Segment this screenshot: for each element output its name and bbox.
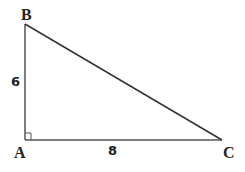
vertex-label-c: C: [223, 144, 235, 161]
side-label-ab: 6: [11, 74, 20, 89]
triangle-diagram: B A C 6 8: [0, 0, 245, 172]
right-angle-marker: [25, 133, 31, 140]
side-label-ac: 8: [108, 143, 117, 158]
vertex-label-b: B: [21, 6, 32, 23]
vertex-label-a: A: [14, 144, 26, 161]
side-bc: [25, 24, 222, 140]
